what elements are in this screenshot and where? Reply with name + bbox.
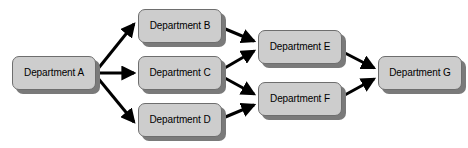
edge-f-g [343, 79, 374, 96]
node-department-d[interactable]: Department D [138, 103, 222, 137]
node-department-e[interactable]: Department E [258, 30, 342, 64]
node-department-f[interactable]: Department F [258, 82, 342, 116]
edge-d-f [223, 105, 254, 118]
diagram-canvas: Department A Department B Department C D… [0, 0, 468, 148]
node-label: Department F [270, 94, 330, 104]
node-department-c[interactable]: Department C [138, 56, 222, 90]
node-label: Department G [389, 68, 451, 78]
node-department-b[interactable]: Department B [138, 9, 222, 43]
edge-a-d [97, 77, 134, 122]
edge-c-f [223, 77, 254, 94]
edge-c-e [223, 51, 254, 69]
node-label: Department D [149, 115, 210, 125]
node-department-g[interactable]: Department G [378, 56, 462, 90]
node-label: Department C [149, 68, 210, 78]
edge-b-e [223, 28, 254, 41]
node-label: Department A [24, 68, 84, 78]
node-label: Department B [150, 21, 211, 31]
node-department-a[interactable]: Department A [12, 56, 96, 90]
edge-a-b [97, 24, 134, 70]
edge-e-g [343, 52, 374, 68]
node-label: Department E [270, 42, 331, 52]
